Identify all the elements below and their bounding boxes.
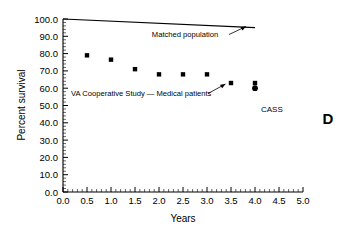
data-point-marker (229, 81, 233, 85)
data-point-marker (205, 72, 209, 76)
x-tick-label: 0.0 (56, 195, 69, 206)
data-point-marker (181, 72, 185, 76)
annotation-text: Matched population (152, 30, 218, 39)
y-tick-label: 100.0 (34, 14, 58, 25)
series-va-cooperative-markers (85, 53, 233, 85)
y-axis-major-ticks (63, 19, 68, 192)
x-tick-label: 3.5 (224, 195, 237, 206)
y-tick-label: 70.0 (40, 65, 59, 76)
x-tick-label: 2.5 (176, 195, 189, 206)
x-tick-label: 3.0 (200, 195, 213, 206)
x-axis-tick-labels: 0.0 0.5 1.0 1.5 2.0 2.5 3.0 3.5 4.0 4.5 … (56, 195, 309, 206)
x-tick-label: 4.0 (248, 195, 261, 206)
y-tick-label: 20.0 (40, 152, 59, 163)
y-tick-label: 10.0 (40, 169, 59, 180)
x-axis-title: Years (170, 213, 195, 224)
data-point-marker (85, 53, 89, 57)
data-point-marker (109, 57, 113, 61)
y-axis-title: Percent survival (16, 69, 27, 140)
x-axis-major-ticks (63, 187, 303, 192)
x-tick-label: 5.0 (296, 195, 309, 206)
data-point-marker (157, 72, 161, 76)
annotation-matched-population: Matched population (152, 27, 246, 39)
x-tick-label: 4.5 (272, 195, 285, 206)
y-axis-tick-labels: 100.0 90.0 80.0 70.0 60.0 50.0 40.0 30.0… (34, 14, 58, 198)
x-tick-label: 2.0 (152, 195, 165, 206)
x-tick-label: 1.5 (128, 195, 141, 206)
panel-letter: D (323, 110, 334, 127)
y-tick-label: 50.0 (40, 100, 59, 111)
cass-square-marker (253, 81, 257, 85)
cass-circle-marker (252, 85, 258, 91)
y-tick-label: 90.0 (40, 31, 59, 42)
y-tick-label: 80.0 (40, 48, 59, 59)
x-tick-label: 1.0 (104, 195, 117, 206)
annotation-text: VA Cooperative Study — Medical patients (71, 89, 212, 98)
figure-panel-d: 100.0 90.0 80.0 70.0 60.0 50.0 40.0 30.0… (0, 0, 347, 235)
y-tick-label: 60.0 (40, 83, 59, 94)
chart-svg: 100.0 90.0 80.0 70.0 60.0 50.0 40.0 30.0… (0, 0, 347, 235)
cass-legend-label: CASS (261, 105, 283, 114)
y-tick-label: 30.0 (40, 135, 59, 146)
x-tick-label: 0.5 (80, 195, 93, 206)
series-cass-markers (252, 81, 258, 91)
y-tick-label: 40.0 (40, 117, 59, 128)
data-point-marker (133, 67, 137, 71)
annotation-va-cooperative: VA Cooperative Study — Medical patients (71, 84, 226, 98)
series-matched-population (63, 19, 255, 28)
